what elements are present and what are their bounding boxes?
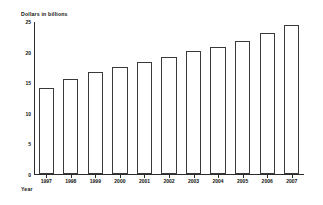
bar	[284, 25, 299, 174]
x-axis-tick-label: 2004	[213, 179, 224, 184]
bar	[210, 47, 225, 174]
bar	[260, 33, 275, 174]
bar	[112, 67, 127, 174]
bar	[161, 57, 176, 174]
bar	[39, 88, 54, 174]
y-axis-tick-label: 25	[25, 20, 31, 25]
x-axis-tick-label: 2002	[163, 179, 174, 184]
bar	[186, 51, 201, 174]
x-axis-tick-label: 1997	[41, 179, 52, 184]
x-axis-tick-label: 1999	[90, 179, 101, 184]
bar	[63, 79, 78, 174]
x-axis-tick-label: 2005	[237, 179, 248, 184]
y-axis-tick-label: 0	[28, 173, 31, 178]
y-axis-tick-label: 5	[28, 142, 31, 147]
y-axis-line	[34, 22, 35, 175]
y-axis-tick-label: 20	[25, 50, 31, 55]
bar	[137, 62, 152, 174]
plot-area: 0510152025 19971998199920002001200220032…	[34, 22, 304, 175]
x-axis-tick-label: 2006	[262, 179, 273, 184]
bar	[88, 72, 103, 174]
x-axis-tick-label: 2001	[139, 179, 150, 184]
x-axis-tick-label: 2003	[188, 179, 199, 184]
y-axis-tick-label: 15	[25, 81, 31, 86]
y-axis-title: Dollars in billions	[21, 11, 68, 17]
x-axis-tick-label: 1998	[65, 179, 76, 184]
bar	[235, 41, 250, 174]
x-axis-title: Year	[21, 186, 33, 192]
x-axis-tick-label: 2000	[114, 179, 125, 184]
x-axis-tick-label: 2007	[286, 179, 297, 184]
y-axis-tick-label: 10	[25, 111, 31, 116]
bar-chart-figure: Dollars in billions 0510152025 199719981…	[0, 0, 323, 205]
